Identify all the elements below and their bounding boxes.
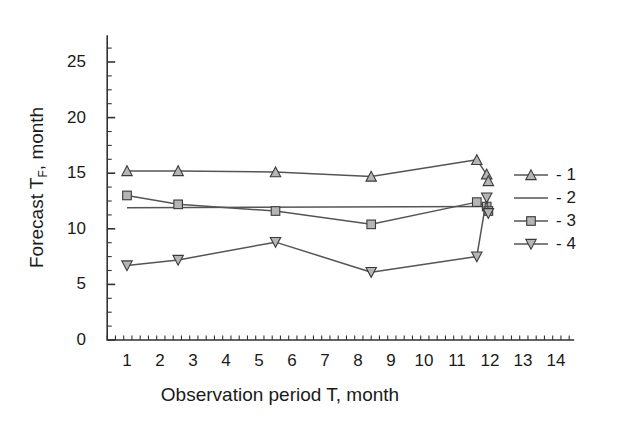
x-tick-label: 3: [188, 352, 197, 369]
legend-item-2[interactable]: - 2: [512, 187, 576, 208]
data-point: [174, 200, 183, 209]
series-1: [122, 155, 494, 186]
data-point: [482, 193, 492, 203]
chart-legend: - 1- 2- 3- 4: [512, 164, 576, 256]
data-point: [271, 207, 280, 216]
line-icon: [512, 189, 550, 207]
x-tick-label: 9: [386, 352, 395, 369]
data-point: [472, 155, 482, 165]
x-tick-label: 4: [221, 352, 230, 369]
x-tick-label: 14: [547, 352, 566, 369]
data-point: [482, 169, 492, 179]
x-tick-label: 7: [320, 352, 329, 369]
data-point: [366, 268, 376, 278]
legend-item-3[interactable]: - 3: [512, 210, 576, 231]
x-tick-label: 1: [122, 352, 131, 369]
x-tick-label: 2: [155, 352, 164, 369]
x-tick-label: 8: [353, 352, 362, 369]
x-tick-label: 11: [448, 352, 466, 369]
legend-label: - 4: [556, 234, 576, 254]
x-tick-label: 12: [481, 352, 500, 369]
data-point: [367, 220, 376, 229]
data-point: [123, 191, 132, 200]
x-tick-label: 10: [415, 352, 434, 369]
series-3: [123, 191, 493, 229]
x-tick-label: 13: [514, 352, 533, 369]
x-tick-label: 5: [254, 352, 263, 369]
x-tick-label: 6: [287, 352, 296, 369]
legend-label: - 3: [556, 211, 576, 231]
legend-label: - 1: [556, 165, 576, 185]
triangle-down-icon: [512, 235, 550, 253]
data-series-group: [122, 155, 494, 278]
axis-ticks: [107, 48, 569, 340]
chart-figure: Forecast TF, month 0510152025 Observatio…: [0, 0, 622, 431]
triangle-up-icon: [512, 166, 550, 184]
legend-item-4[interactable]: - 4: [512, 233, 576, 254]
legend-label: - 2: [556, 188, 576, 208]
legend-item-1[interactable]: - 1: [512, 164, 576, 185]
data-point: [473, 198, 482, 207]
square-icon: [512, 212, 550, 230]
axis-lines: [107, 35, 574, 340]
